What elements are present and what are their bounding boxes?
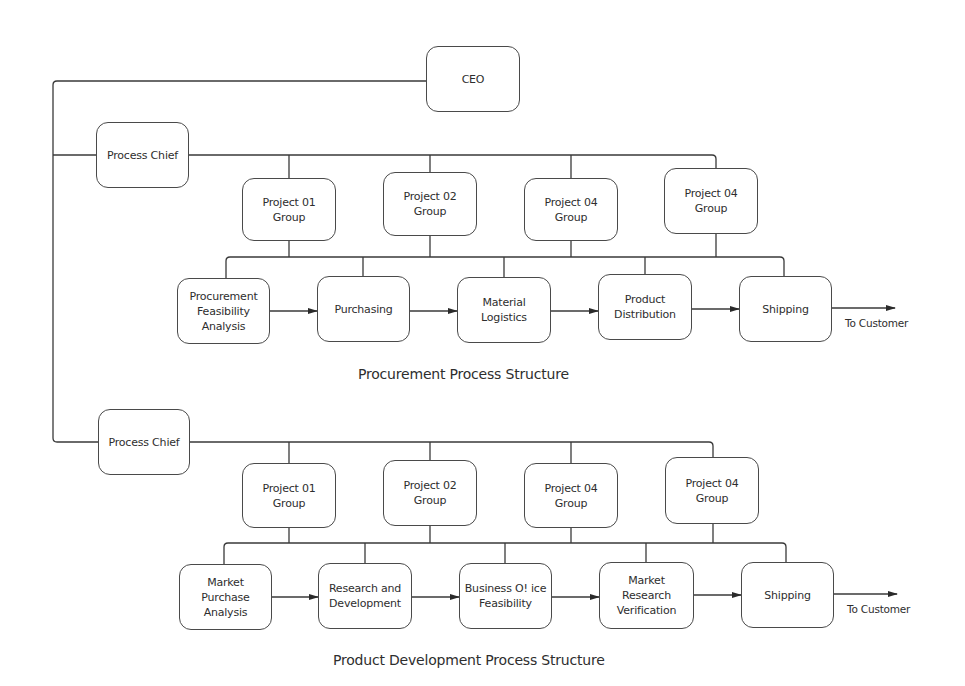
process-step-node: Purchasing	[317, 276, 410, 342]
project-group-node: Project 04 Group	[524, 178, 618, 241]
org-process-diagram: CEO Process Chief Project 01 Group Proje…	[0, 0, 965, 686]
project-group-node: Project 02 Group	[383, 460, 477, 526]
ceo-node: CEO	[426, 46, 520, 112]
section-caption: Procurement Process Structure	[358, 366, 569, 382]
project-group-node: Project 04 Group	[665, 457, 759, 524]
project-group-node: Project 02 Group	[383, 172, 477, 236]
project-group-node: Project 01 Group	[242, 178, 336, 241]
project-group-node: Project 01 Group	[242, 463, 336, 528]
process-step-node: Research and Development	[318, 563, 412, 629]
project-group-node: Project 04 Group	[664, 168, 758, 234]
to-customer-label: To Customer	[847, 603, 910, 615]
process-step-node: Market Purchase Analysis	[179, 564, 272, 630]
process-step-node: Material Logistics	[457, 277, 551, 343]
to-customer-label: To Customer	[845, 317, 908, 329]
process-chief-node-procurement: Process Chief	[96, 122, 189, 188]
process-step-node: Shipping	[739, 276, 832, 342]
process-chief-node-product-development: Process Chief	[98, 409, 190, 475]
process-step-node: Market Research Verification	[599, 562, 694, 629]
section-caption: Product Development Process Structure	[333, 652, 605, 668]
project-group-node: Project 04 Group	[524, 463, 618, 528]
process-step-node: Shipping	[741, 562, 834, 628]
process-step-node: Procurement Feasibility Analysis	[177, 278, 270, 344]
process-step-node: Product Distribution	[598, 274, 692, 340]
process-step-node: Business O! ice Feasibility	[459, 563, 552, 629]
